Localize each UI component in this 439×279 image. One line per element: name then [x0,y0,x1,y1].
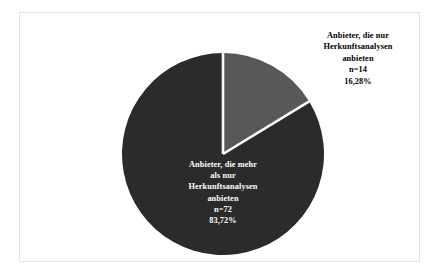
figure-frame: Anbieter, die nur Herkunftsanalysen anbi… [19,12,420,262]
slice-label-line: Anbieter, die nur [278,30,438,41]
slice-label-line: anbieten [153,193,293,204]
slice-label-line: Herkunftsanalysen [153,181,293,192]
slice-label-nur-herkunftsanalysen: Anbieter, die nur Herkunftsanalysen anbi… [278,30,438,87]
slice-label-line: anbieten [278,53,438,64]
slice-label-line: Anbieter, die mehr [153,159,293,170]
slice-label-count: n=72 [153,204,293,215]
slice-label-percent: 16,28% [278,76,438,87]
slice-label-line: als nur [153,170,293,181]
slice-label-line: Herkunftsanalysen [278,41,438,52]
slice-label-count: n=14 [278,64,438,75]
slice-label-mehr-als-nur-herkunftsanalysen: Anbieter, die mehr als nur Herkunftsanal… [153,159,293,226]
slice-label-percent: 83,72% [153,215,293,226]
